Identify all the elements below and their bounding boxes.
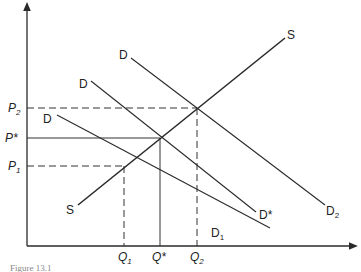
figure-caption: Figure 13.1: [10, 263, 52, 272]
demand-star-end-label: D*: [259, 208, 273, 222]
q2-label: Q2: [190, 250, 204, 266]
qstar-label: Q*: [152, 250, 166, 264]
supply-demand-diagram: S S D D1 D D* D D2 P2 P* P1 Q1 Q* Q2 Fig…: [0, 0, 361, 272]
demand-2-start-label: D: [119, 48, 128, 62]
demand-1-end-label: D1: [211, 226, 225, 242]
demand-curve-1: [57, 115, 270, 228]
demand-star-start-label: D: [79, 77, 88, 91]
demand-2-end-label: D2: [326, 204, 340, 220]
supply-curve: [78, 38, 285, 205]
q1-label: Q1: [118, 250, 132, 266]
p2-label: P2: [8, 101, 21, 117]
supply-end-label: S: [287, 28, 295, 42]
p1-label: P1: [8, 159, 20, 175]
supply-start-label: S: [66, 203, 74, 217]
demand-1-start-label: D: [43, 112, 52, 126]
pstar-label: P*: [5, 131, 18, 145]
